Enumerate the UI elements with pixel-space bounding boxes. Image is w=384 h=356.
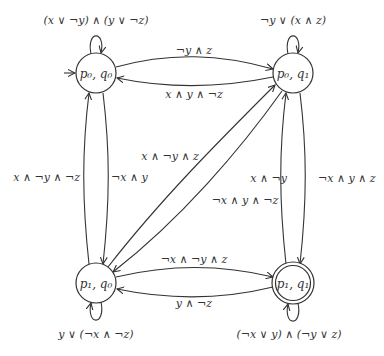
self-loop-label-s11: (¬x ∨ y) ∧ (¬y ∨ z) — [236, 328, 341, 341]
edge-label-s01-s00: x ∧ y ∧ ¬z — [165, 88, 223, 101]
self-loop-s10 — [90, 302, 102, 320]
self-loop-label-s00: (x ∨ ¬y) ∧ (y ∨ ¬z) — [43, 14, 148, 27]
state-label: p₀, q₁ — [277, 67, 310, 81]
state-s00: p₀, q₀ — [76, 53, 116, 93]
edge-s00-s01 — [116, 57, 273, 69]
self-loop-s00 — [90, 36, 102, 54]
self-loop-label-s01: ¬y ∨ (x ∧ z) — [260, 14, 326, 27]
state-s11-accepting: p₁, q₁ — [272, 262, 314, 304]
self-loop-label-s10: y ∨ (¬x ∧ ¬z) — [57, 328, 133, 341]
edge-label-s01-s11: ¬x ∧ y ∧ z — [318, 172, 376, 185]
edge-s00-s10 — [103, 93, 108, 264]
automaton-diagram: p₀, q₀ p₀, q₁ p₁, q₀ p₁, q₁ (x ∨ ¬y) ∧ (… — [0, 0, 384, 356]
edge-label-s11-s01: x ∧ ¬y — [250, 172, 287, 185]
edge-s10-s00 — [84, 93, 89, 264]
edge-label-s11-s10: y ∧ ¬z — [175, 297, 212, 310]
edge-s01-s00 — [117, 77, 273, 86]
self-loop-s01 — [287, 36, 299, 54]
state-s10: p₁, q₀ — [76, 263, 116, 303]
self-loop-s11 — [287, 303, 299, 321]
edge-label-s00-s01: ¬y ∧ z — [176, 44, 212, 57]
edge-label-s01-s10: ¬x ∧ y ∧ ¬z — [212, 194, 279, 207]
state-s01: p₀, q₁ — [273, 53, 313, 93]
edge-s11-s10 — [117, 287, 273, 297]
edge-s01-s11 — [300, 93, 305, 264]
state-label: p₁, q₀ — [80, 277, 113, 291]
state-label: p₁, q₁ — [277, 277, 310, 291]
edge-label-s10-s00: x ∧ ¬y ∧ ¬z — [13, 171, 80, 184]
edge-label-s10-s11: ¬x ∧ ¬y ∧ z — [161, 253, 228, 266]
edge-label-s00-s10: ¬x ∧ y — [111, 171, 148, 184]
edge-s10-s11 — [116, 267, 273, 277]
edge-label-s10-s01: x ∧ ¬y ∧ z — [141, 150, 199, 163]
state-label: p₀, q₀ — [80, 67, 113, 81]
